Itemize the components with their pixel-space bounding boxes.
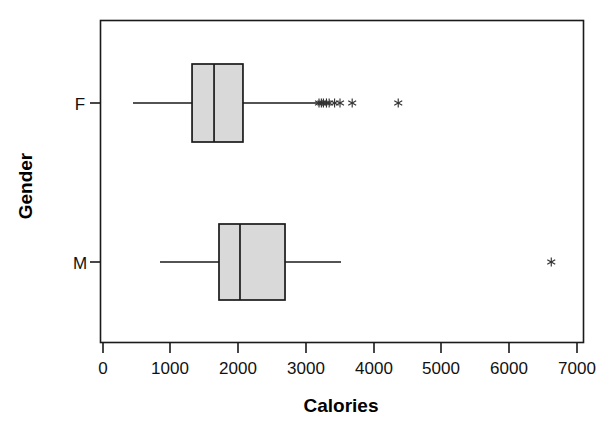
- boxplot-group-m: [160, 224, 555, 300]
- x-tick-label-4000: 4000: [355, 359, 393, 378]
- boxplot-figure: 0 1000 2000 3000 4000 5000 6000 7000 F M…: [0, 0, 614, 428]
- boxplot-svg: 0 1000 2000 3000 4000 5000 6000 7000 F M…: [0, 0, 614, 428]
- x-tick-label-3000: 3000: [287, 359, 325, 378]
- box-layer: [133, 64, 555, 300]
- x-axis-title: Calories: [304, 395, 379, 416]
- x-tick-label-7000: 7000: [558, 359, 596, 378]
- outlier-f-6: [336, 98, 344, 107]
- box-f: [192, 64, 243, 142]
- boxplot-group-f: [133, 64, 402, 142]
- x-tick-label-0: 0: [98, 359, 107, 378]
- x-tick-label-2000: 2000: [219, 359, 257, 378]
- y-tick-label-m: M: [73, 254, 87, 273]
- x-tick-label-6000: 6000: [490, 359, 528, 378]
- box-m: [219, 224, 285, 300]
- x-axis-ticks: [103, 343, 577, 353]
- plot-frame: [101, 21, 584, 343]
- y-axis-ticks: [90, 103, 100, 262]
- outlier-f-5: [331, 98, 339, 107]
- outlier-m-0: [547, 257, 555, 266]
- y-tick-label-f: F: [75, 95, 85, 114]
- outlier-f-8: [394, 98, 402, 107]
- y-axis-title: Gender: [15, 152, 36, 219]
- x-tick-label-5000: 5000: [422, 359, 460, 378]
- outlier-f-7: [348, 98, 356, 107]
- x-tick-label-1000: 1000: [151, 359, 189, 378]
